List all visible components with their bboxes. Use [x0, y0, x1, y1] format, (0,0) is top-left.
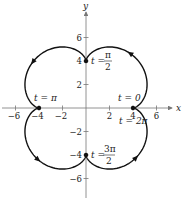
y-tick-label: −4 [69, 150, 82, 160]
label-tpi2: t = π 2 [91, 50, 112, 72]
svg-text:t =: t = [91, 56, 105, 66]
svg-text:π: π [105, 50, 111, 60]
point-tpi2 [84, 59, 88, 63]
y-tick-label: −6 [69, 174, 82, 184]
x-axis-label: x [176, 103, 181, 113]
point-tpi [37, 106, 41, 110]
point-t0 [131, 106, 135, 110]
svg-text:2: 2 [105, 62, 111, 72]
direction-arrows [29, 50, 140, 164]
y-tick-label: −2 [69, 127, 82, 137]
y-tick-label: 4 [77, 56, 82, 66]
y-tick-label: 2 [77, 80, 82, 90]
svg-text:3π: 3π [104, 144, 116, 154]
label-tpi: t = π [34, 93, 58, 103]
x-tick-label: −4 [31, 111, 44, 121]
label-t3pi2: t = 3π 2 [91, 144, 116, 166]
point-t3pi2 [84, 153, 88, 157]
svg-text:t =: t = [91, 150, 105, 160]
x-tick-label: 6 [154, 111, 159, 121]
parametric-graph: x y −6−4−2246 642−2−4−6 t = 0 t = 2π t =… [0, 0, 184, 199]
label-t2pi: t = 2π [119, 116, 149, 126]
x-tick-label: 2 [107, 111, 112, 121]
x-tick-label: −6 [8, 111, 21, 121]
label-t0: t = 0 [118, 93, 141, 103]
y-axis-label: y [82, 1, 89, 11]
x-tick-label: −2 [55, 111, 68, 121]
y-tick-label: 6 [77, 33, 82, 43]
svg-text:2: 2 [106, 156, 112, 166]
